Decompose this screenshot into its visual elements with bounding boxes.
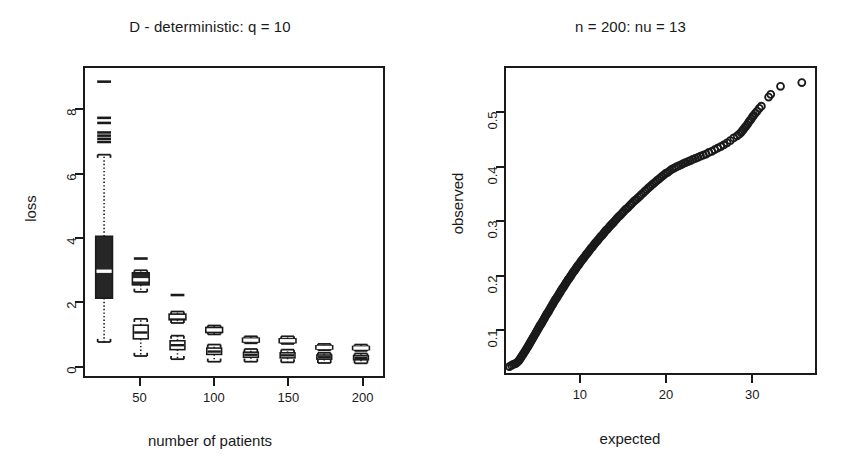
- y-tick-label: 0.5: [485, 112, 500, 170]
- boxplot-drawing-area: [85, 68, 383, 376]
- x-tick-label: 20: [636, 387, 696, 402]
- y-tick-label: 0.3: [485, 221, 500, 279]
- qq-point: [777, 83, 784, 90]
- right-plot-frame: [504, 66, 817, 375]
- boxplot-dark: [353, 345, 370, 351]
- boxplot-dark: [279, 336, 296, 344]
- left-plot-frame: [83, 66, 385, 378]
- qqplot-drawing-area: [506, 68, 815, 373]
- x-tick-mark: [213, 378, 215, 386]
- left-x-axis-title: number of patients: [0, 432, 440, 449]
- x-tick-label: 10: [550, 387, 610, 402]
- boxplot-group: [242, 336, 259, 361]
- boxplot-group: [169, 295, 186, 359]
- boxplot-dark: [242, 336, 259, 343]
- boxplot-light: [243, 349, 258, 362]
- y-tick-label: 0.4: [485, 166, 500, 224]
- boxplot-group: [206, 326, 223, 362]
- boxplot-group: [279, 336, 296, 362]
- boxplot-light: [170, 336, 185, 359]
- x-tick-mark: [579, 375, 581, 383]
- x-tick-label: 150: [258, 390, 318, 405]
- x-tick-label: 50: [110, 390, 170, 405]
- boxplot-light: [280, 350, 295, 363]
- x-tick-label: 200: [333, 390, 393, 405]
- y-tick-label: 0: [64, 366, 79, 424]
- boxplot-light: [207, 345, 222, 362]
- right-panel-title: n = 200: nu = 13: [420, 18, 841, 35]
- boxplot-group: [353, 345, 370, 364]
- y-tick-label: 0.1: [485, 330, 500, 388]
- qq-point: [798, 79, 805, 86]
- boxplot-dark: [206, 326, 223, 335]
- panel-qqplot: n = 200: nu = 13 observed expected 10203…: [420, 0, 841, 468]
- x-tick-mark: [362, 378, 364, 386]
- y-tick-label: 0.2: [485, 275, 500, 333]
- boxplot-light: [133, 319, 148, 356]
- boxplot-group: [96, 82, 113, 342]
- x-tick-label: 30: [722, 387, 782, 402]
- y-tick-label: 2: [64, 302, 79, 360]
- x-tick-mark: [665, 375, 667, 383]
- boxplot-light: [354, 353, 369, 363]
- x-tick-label: 100: [184, 390, 244, 405]
- figure-canvas: D - deterministic: q = 10 loss number of…: [0, 0, 841, 468]
- boxplot-dark: [169, 295, 186, 323]
- y-tick-label: 6: [64, 173, 79, 231]
- right-y-axis-title: observed: [449, 149, 466, 259]
- x-tick-mark: [139, 378, 141, 386]
- boxplot-dark: [132, 259, 149, 292]
- boxplot-group: [132, 259, 149, 356]
- left-y-axis-title: loss: [22, 169, 39, 249]
- y-tick-label: 8: [64, 109, 79, 167]
- boxplot-light: [317, 353, 332, 363]
- x-tick-mark: [751, 375, 753, 383]
- panel-boxplot: D - deterministic: q = 10 loss number of…: [0, 0, 420, 468]
- left-panel-title: D - deterministic: q = 10: [0, 18, 420, 35]
- boxplot-group: [316, 344, 333, 363]
- boxplot-dark: [96, 82, 113, 342]
- qq-point-series: [506, 79, 805, 370]
- boxplot-dark: [316, 344, 333, 350]
- y-tick-label: 4: [64, 238, 79, 296]
- x-tick-mark: [287, 378, 289, 386]
- right-x-axis-title: expected: [400, 430, 841, 447]
